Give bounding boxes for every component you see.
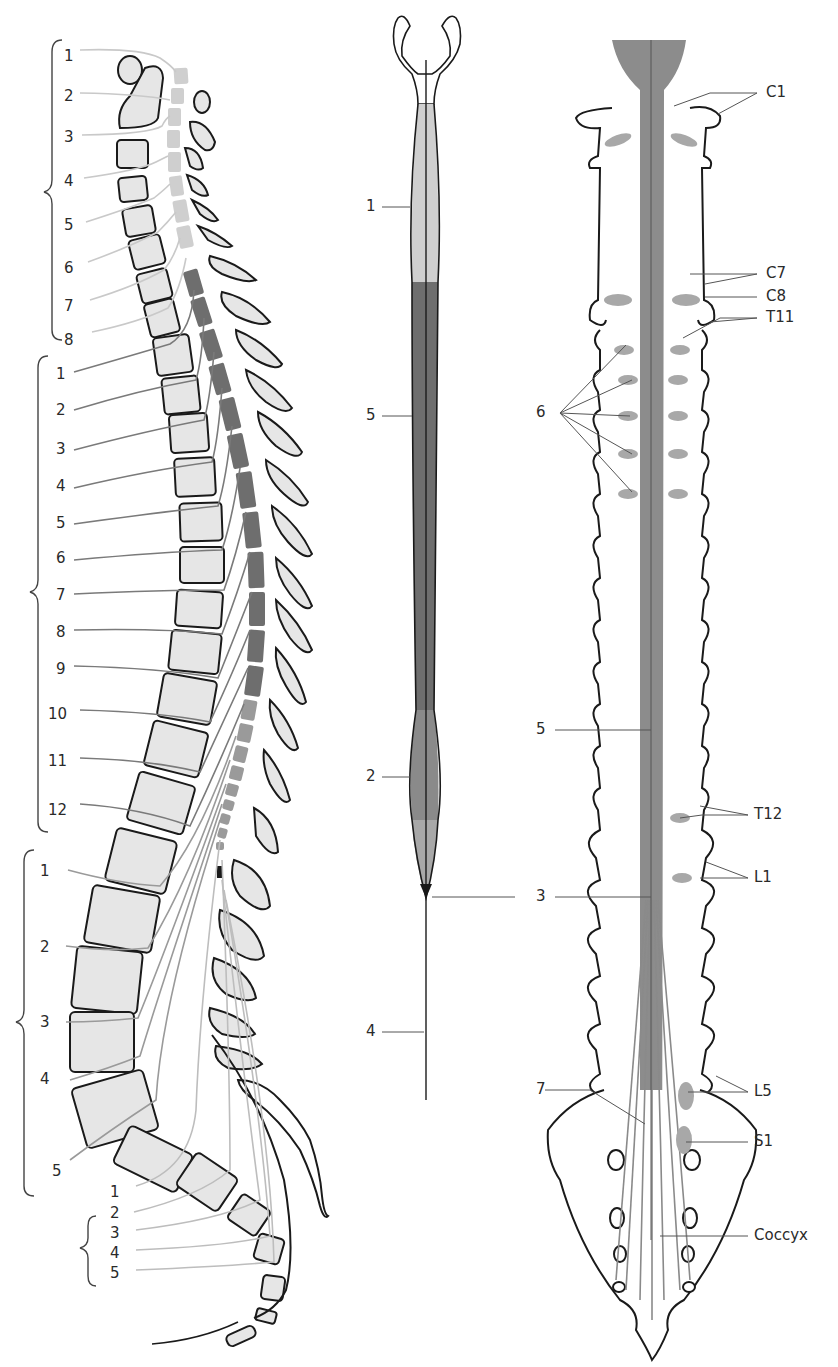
- label-cervical-6: 6: [64, 261, 74, 276]
- label-thoracic-11: 11: [48, 754, 67, 769]
- label-thoracic-1: 1: [56, 367, 66, 382]
- label-thoracic-3: 3: [56, 442, 66, 457]
- label-thoracic-cord: 5: [366, 408, 376, 423]
- label-c8: C8: [766, 289, 786, 304]
- label-t12: T12: [754, 807, 782, 822]
- label-lumbar-4: 4: [40, 1072, 50, 1087]
- label-coccyx: Coccyx: [754, 1228, 808, 1243]
- label-spinal-ganglia: 6: [536, 405, 546, 420]
- isolated-spinal-cord: [382, 16, 515, 1100]
- label-c7: C7: [766, 266, 786, 281]
- label-lumbar-2: 2: [40, 940, 50, 955]
- posterior-spine-view: [545, 40, 757, 1360]
- label-sacral-5: 5: [110, 1266, 120, 1281]
- label-cauda-equina: 7: [536, 1082, 546, 1097]
- label-s1: S1: [754, 1134, 773, 1149]
- label-filum-terminale: 4: [366, 1024, 376, 1039]
- label-sacral-2: 2: [110, 1206, 120, 1221]
- label-cervical-3: 3: [64, 130, 74, 145]
- lateral-spine-view: [16, 40, 328, 1348]
- label-thoracic-12: 12: [48, 803, 67, 818]
- label-thoracic-8: 8: [56, 625, 66, 640]
- label-thoracic-4: 4: [56, 479, 66, 494]
- label-cervical-5: 5: [64, 218, 74, 233]
- label-lumbar-3: 3: [40, 1015, 50, 1030]
- label-thoracic-7: 7: [56, 588, 66, 603]
- label-thoracic-10: 10: [48, 707, 67, 722]
- label-cervical-enlargement: 1: [366, 199, 376, 214]
- label-l5: L5: [754, 1084, 772, 1099]
- label-t11: T11: [766, 310, 794, 325]
- label-sacral-4: 4: [110, 1246, 120, 1261]
- spinal-cord-diagram: [0, 0, 838, 1367]
- label-lumbar-5: 5: [52, 1164, 62, 1179]
- label-c1: C1: [766, 85, 786, 100]
- label-conus-medullaris: 3: [536, 889, 546, 904]
- label-cervical-2: 2: [64, 89, 74, 104]
- label-lumbar-1: 1: [40, 864, 50, 879]
- label-cervical-4: 4: [64, 174, 74, 189]
- label-cervical-8: 8: [64, 333, 74, 348]
- label-thoracic-2: 2: [56, 403, 66, 418]
- label-cervical-7: 7: [64, 299, 74, 314]
- brainstem: [394, 16, 461, 104]
- label-spinal-cord: 5: [536, 722, 546, 737]
- label-thoracic-6: 6: [56, 551, 66, 566]
- label-thoracic-5: 5: [56, 516, 66, 531]
- label-thoracic-9: 9: [56, 662, 66, 677]
- label-l1: L1: [754, 870, 772, 885]
- label-cervical-1: 1: [64, 49, 74, 64]
- sacrum-dorsal-outline: [238, 1080, 328, 1217]
- label-sacral-1: 1: [110, 1185, 120, 1200]
- label-sacral-3: 3: [110, 1226, 120, 1241]
- label-lumbar-enlargement: 2: [366, 769, 376, 784]
